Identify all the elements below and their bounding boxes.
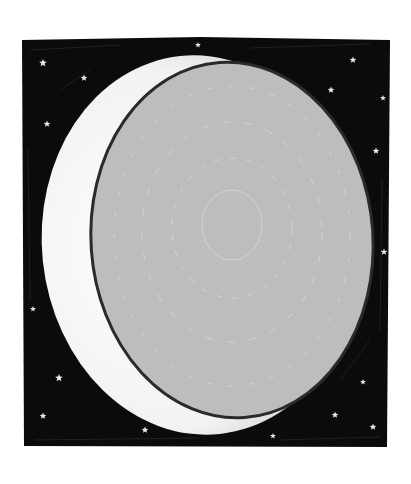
crescent-moon-illustration (0, 0, 411, 484)
